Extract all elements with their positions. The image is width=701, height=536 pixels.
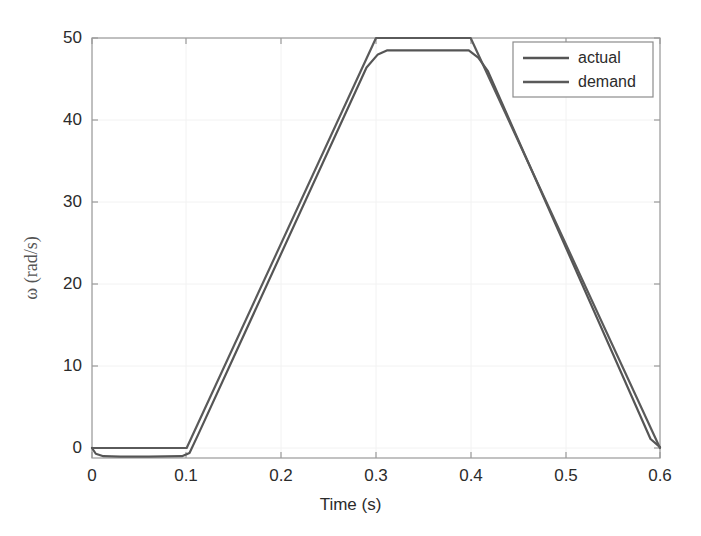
x-tick-label-0-6: 0.6 xyxy=(630,466,690,486)
chart-figure: 50 40 30 20 10 0 0 0.1 0.2 0.3 0.4 0.5 0… xyxy=(0,0,701,536)
x-tick-label-0-4: 0.4 xyxy=(441,466,501,486)
grid-lines xyxy=(92,38,660,458)
y-axis-title: ω (rad/s) xyxy=(21,236,42,299)
legend-label-actual: actual xyxy=(578,49,621,67)
x-tick-label-0-2: 0.2 xyxy=(251,466,311,486)
x-tick-label-0-3: 0.3 xyxy=(346,466,406,486)
x-axis-title: Time (s) xyxy=(0,495,701,515)
x-tick-label-0-1: 0.1 xyxy=(156,466,216,486)
y-axis-title-wrap: ω (rad/s) xyxy=(14,0,48,536)
x-tick-label-0-5: 0.5 xyxy=(536,466,596,486)
legend-label-demand: demand xyxy=(578,73,636,91)
x-tick-label-0: 0 xyxy=(62,466,122,486)
